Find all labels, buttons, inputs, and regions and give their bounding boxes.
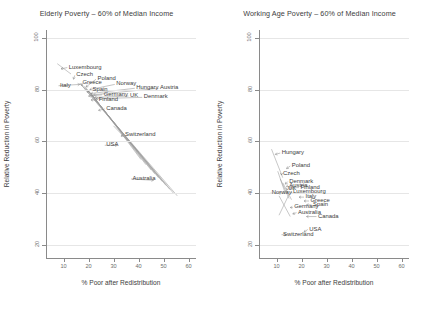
- figure-canvas: Elderly Poverty – 60% of Median Income R…: [0, 0, 426, 310]
- data-point-label: Canada: [318, 214, 339, 220]
- x-tick: [139, 258, 140, 262]
- data-point-label: Poland: [292, 163, 310, 169]
- x-axis-label-workingage: % Poor after Redistribution: [295, 279, 374, 286]
- plot-area-elderly: Relative Reduction in Poverty % Poor aft…: [46, 30, 196, 258]
- y-tick: [42, 193, 46, 194]
- x-tick: [89, 258, 90, 262]
- trend-segment: [279, 195, 289, 216]
- chart-title-elderly: Elderly Poverty – 60% of Median Income: [0, 9, 213, 18]
- x-tick-label: 40: [129, 263, 149, 269]
- chart-panel-workingage: Working Age Poverty – 60% of Median Inco…: [213, 0, 426, 310]
- data-point-label: Italy: [60, 83, 71, 89]
- x-tick-label: 20: [292, 263, 312, 269]
- x-tick: [377, 258, 378, 262]
- y-tick-label: 100: [235, 34, 253, 40]
- x-tick: [189, 258, 190, 262]
- x-axis-line: [259, 258, 409, 259]
- x-tick: [302, 258, 303, 262]
- data-point-label: Denmark: [144, 94, 168, 100]
- y-axis-label-workingage: Relative Reduction in Poverty: [216, 101, 223, 188]
- y-tick: [255, 141, 259, 142]
- y-tick: [42, 245, 46, 246]
- trend-segment: [279, 196, 290, 217]
- x-tick: [64, 258, 65, 262]
- gridline-y: [260, 245, 409, 246]
- x-tick-label: 60: [392, 263, 412, 269]
- x-tick-label: 60: [179, 263, 199, 269]
- x-tick-label: 50: [154, 263, 174, 269]
- x-axis-label-elderly: % Poor after Redistribution: [82, 279, 161, 286]
- data-overlay-workingage: [259, 30, 409, 258]
- y-tick-label: 20: [22, 241, 40, 247]
- y-tick-label: 40: [22, 189, 40, 195]
- y-tick-label: 100: [22, 34, 40, 40]
- x-tick: [402, 258, 403, 262]
- x-tick: [114, 258, 115, 262]
- y-tick: [255, 90, 259, 91]
- x-tick: [352, 258, 353, 262]
- gridline-y: [260, 90, 409, 91]
- x-tick-label: 50: [367, 263, 387, 269]
- plot-area-workingage: Relative Reduction in Poverty % Poor aft…: [259, 30, 409, 258]
- y-axis-label-elderly: Relative Reduction in Poverty: [3, 101, 10, 188]
- y-tick-label: 60: [22, 137, 40, 143]
- x-tick: [327, 258, 328, 262]
- y-tick-label: 20: [235, 241, 253, 247]
- data-point-label: Switzerland: [125, 132, 155, 138]
- x-tick-label: 30: [317, 263, 337, 269]
- data-point-label: Poland: [98, 76, 116, 82]
- x-axis-line: [46, 258, 196, 259]
- x-tick: [277, 258, 278, 262]
- y-tick-label: 40: [235, 189, 253, 195]
- y-tick: [255, 245, 259, 246]
- data-point-label: Finland: [99, 97, 118, 103]
- x-tick: [164, 258, 165, 262]
- chart-title-workingage: Working Age Poverty – 60% of Median Inco…: [213, 9, 426, 18]
- y-tick: [255, 193, 259, 194]
- y-tick: [255, 38, 259, 39]
- x-tick-label: 10: [54, 263, 74, 269]
- y-tick-label: 60: [235, 137, 253, 143]
- data-point-label: Australia: [133, 176, 156, 182]
- data-point-label: Czech: [76, 72, 93, 78]
- gridline-y: [47, 245, 196, 246]
- data-point-label: Hungary: [282, 150, 304, 156]
- data-point-label: USA: [106, 142, 118, 148]
- gridline-y: [47, 38, 196, 39]
- gridline-y: [260, 141, 409, 142]
- gridline-y: [47, 193, 196, 194]
- gridline-y: [260, 38, 409, 39]
- data-point-label: Czech: [283, 171, 300, 177]
- y-tick: [42, 38, 46, 39]
- data-point-label: Luxembourg: [69, 65, 102, 71]
- chart-panel-elderly: Elderly Poverty – 60% of Median Income R…: [0, 0, 213, 310]
- data-point-label: Austria: [160, 85, 178, 91]
- x-tick-label: 20: [79, 263, 99, 269]
- data-point-label: Canada: [106, 106, 127, 112]
- x-tick-label: 30: [104, 263, 124, 269]
- x-tick-label: 40: [342, 263, 362, 269]
- gridline-y: [47, 141, 196, 142]
- x-tick-label: 10: [267, 263, 287, 269]
- data-point-label: Hungary: [136, 85, 158, 91]
- data-point-label: Norway: [272, 190, 292, 196]
- y-tick: [42, 141, 46, 142]
- data-point-label: UK: [130, 93, 138, 99]
- y-tick-label: 80: [22, 86, 40, 92]
- data-point-label: Norway: [116, 81, 136, 87]
- y-tick: [42, 90, 46, 91]
- data-point-label: Switzerland: [283, 232, 313, 238]
- y-tick-label: 80: [235, 86, 253, 92]
